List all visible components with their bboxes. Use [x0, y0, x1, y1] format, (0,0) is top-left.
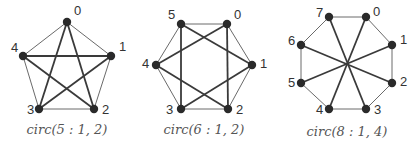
vertex-5	[177, 20, 185, 28]
vertex-label-3: 3	[374, 102, 381, 117]
vertex-4	[325, 105, 333, 113]
edge-0-1	[366, 17, 392, 45]
vertex-3	[177, 105, 185, 113]
circulant-graphs-figure: 01234 circ(5 : 1, 2) 012345 circ(6 : 1, …	[0, 0, 417, 145]
vertex-4	[19, 52, 27, 60]
graph-caption: circ(8 : 1, 4)	[307, 124, 388, 139]
vertex-3	[35, 105, 43, 113]
vertex-5	[297, 79, 305, 87]
vertex-label-6: 6	[288, 33, 295, 48]
vertex-label-0: 0	[373, 4, 380, 19]
edge-4-0	[23, 22, 67, 56]
vertex-label-2: 2	[236, 102, 243, 117]
vertex-7	[325, 13, 333, 21]
graph-circ-6-1-2: 012345 circ(6 : 1, 2)	[142, 7, 267, 137]
vertex-label-7: 7	[316, 5, 323, 20]
vertex-4	[152, 61, 160, 69]
edge-6-7	[301, 17, 329, 45]
vertex-1	[248, 61, 256, 69]
vertex-2	[90, 105, 98, 113]
graph-caption: circ(5 : 1, 2)	[27, 122, 108, 137]
vertex-label-2: 2	[400, 74, 407, 89]
vertex-1	[107, 52, 115, 60]
vertex-0	[63, 18, 71, 26]
vertex-3	[362, 105, 370, 113]
edge-0-2	[227, 24, 228, 109]
vertex-label-3: 3	[166, 102, 173, 117]
vertex-label-4: 4	[316, 102, 323, 117]
graph-edges	[23, 22, 111, 109]
graph-edges	[156, 24, 252, 109]
vertex-label-4: 4	[142, 56, 149, 71]
vertex-label-3: 3	[27, 102, 34, 117]
edge-0-3	[39, 22, 67, 109]
vertex-label-1: 1	[260, 56, 267, 71]
vertex-label-5: 5	[168, 7, 175, 22]
vertex-label-1: 1	[119, 39, 126, 54]
vertex-0	[223, 20, 231, 28]
vertex-0	[362, 13, 370, 21]
edge-0-2	[67, 22, 94, 109]
vertex-label-2: 2	[102, 102, 109, 117]
vertex-label-4: 4	[11, 40, 18, 55]
edge-0-1	[227, 24, 252, 65]
graph-circ-5-1-2: 01234 circ(5 : 1, 2)	[11, 3, 126, 137]
vertex-2	[388, 79, 396, 87]
vertex-label-5: 5	[288, 75, 295, 90]
vertex-2	[224, 105, 232, 113]
graph-edges	[301, 17, 392, 109]
graph-caption: circ(6 : 1, 2)	[164, 122, 245, 137]
vertex-label-1: 1	[400, 32, 407, 47]
edge-4-5	[301, 83, 329, 109]
vertex-1	[388, 41, 396, 49]
edge-1-3	[39, 56, 111, 109]
vertex-label-0: 0	[234, 7, 241, 22]
graph-circ-8-1-4: 01234567 circ(8 : 1, 4)	[288, 4, 407, 139]
edge-4-5	[156, 24, 181, 65]
vertex-label-0: 0	[74, 3, 81, 18]
vertex-6	[297, 41, 305, 49]
edge-0-1	[67, 22, 111, 56]
